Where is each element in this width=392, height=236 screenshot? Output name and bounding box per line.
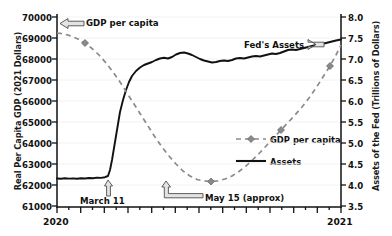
chart-canvas [0, 0, 392, 236]
annotation-arrow-gdp-left [60, 19, 84, 29]
legend-marks [236, 136, 266, 162]
series-line-gdp-per-capita [57, 33, 341, 182]
x-axis-ticks [57, 207, 341, 213]
annotation-arrow-assets-right [308, 40, 324, 50]
gridlines [57, 17, 341, 185]
legend-marker-gdp [248, 136, 255, 143]
series-line-assets [57, 40, 341, 179]
annotation-arrow-may-15 [162, 181, 203, 198]
chart-figure: Real Per Capita GDP (2021 Dollars) Asset… [0, 0, 392, 236]
annotation-arrow-march-11 [105, 180, 113, 196]
